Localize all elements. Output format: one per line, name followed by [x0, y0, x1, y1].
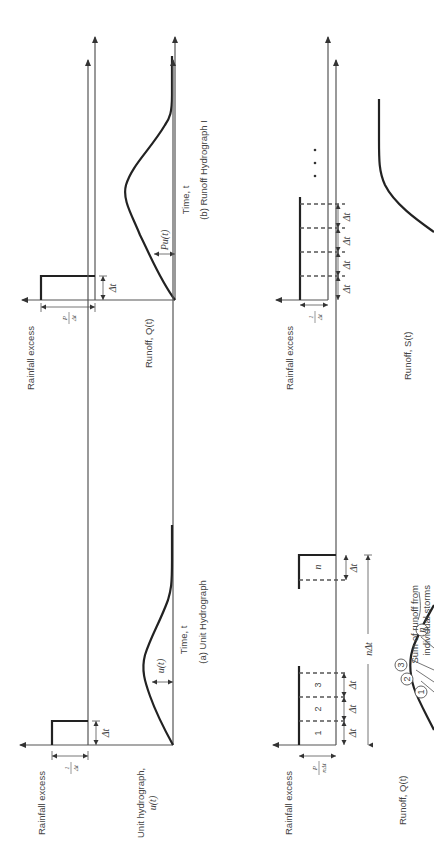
- panel-b-rain-height-den: Δt: [70, 314, 78, 322]
- panel-c-runoff-label: Runoff, Q(t): [397, 776, 408, 825]
- panel-a-runoff-label-1: Unit hydrograph,: [135, 768, 146, 838]
- panel-a-unit-hydrograph: 1 Δt Δt Rainfall excess u(t) Unit hydrog…: [20, 60, 208, 838]
- panel-c-rainfall-label: Rainfall excess: [283, 771, 294, 835]
- panel-c-block-label-2: 2: [313, 706, 323, 711]
- panel-a-rainfall-block: [52, 721, 88, 745]
- panel-b-rainfall-label: Rainfall excess: [25, 326, 36, 390]
- panel-a-time-label: Time, t: [178, 625, 189, 654]
- panel-c-interval-3: Δt: [347, 680, 358, 690]
- panel-a-rainfall-label: Rainfall excess: [36, 771, 47, 835]
- panel-c-superposition: 1 2 3 n P nΔt Δt Δt Δt Δt nΔt Rainfall e…: [273, 60, 434, 835]
- panel-b-ordinate-label: Pu(t): [159, 229, 171, 251]
- storm-marker-1-label: 1: [416, 689, 426, 694]
- panel-d-s-curve: 1 Δt Δt Δt Δt Δt Rainfall excess Runoff,…: [276, 37, 434, 390]
- panel-a-rain-height-num: 1: [63, 766, 71, 770]
- panel-b-time-label: Time, t: [180, 185, 191, 214]
- panel-a-unit-hydrograph-curve: [143, 525, 173, 745]
- panel-b-runoff-hydrograph: P Δt Δt Rainfall excess Pu(t) Runoff, Q(…: [22, 37, 209, 390]
- panel-c-annotation-2: individual storms: [421, 585, 432, 656]
- panel-a-ordinate-label: u(t): [155, 658, 167, 673]
- panel-d-s-curve-line: [379, 99, 434, 232]
- panel-c-annotation-1: Sum of runoff from: [409, 585, 420, 664]
- panel-b-rainfall-block: [41, 276, 95, 300]
- hydrograph-figure: P Δt Δt Rainfall excess Pu(t) Runoff, Q(…: [0, 0, 434, 844]
- panel-d-interval-3: Δt: [341, 236, 352, 246]
- panel-d-interval-2: Δt: [341, 260, 352, 270]
- panel-c-interval-n: Δt: [348, 563, 359, 573]
- panel-c-block-label-3: 3: [313, 682, 323, 687]
- panel-a-caption: (a) Unit Hydrograph: [197, 580, 208, 663]
- panel-c-rainfall-block-n: [299, 555, 336, 589]
- panel-d-rainfall-label: Rainfall excess: [284, 326, 295, 390]
- panel-a-rain-height-den: Δt: [72, 764, 80, 772]
- panel-b-rain-height-num: P: [61, 315, 69, 321]
- panel-b-runoff-curve: [125, 56, 175, 300]
- panel-a-runoff-label-2: u(t): [147, 795, 159, 810]
- panel-d-rain-height-num: 1: [307, 315, 315, 319]
- panel-c-block-label-1: 1: [313, 730, 323, 735]
- panel-c-block-label-n: n: [312, 565, 323, 570]
- panel-d-interval-4: Δt: [341, 212, 352, 222]
- panel-d-rain-height-den: Δt: [316, 313, 324, 321]
- storm-marker-3-label: 3: [396, 662, 406, 667]
- panel-b-duration-label: Δt: [107, 283, 118, 293]
- storm-marker-2-label: 2: [402, 676, 412, 681]
- panel-b-runoff-label: Runoff, Q(t): [143, 319, 154, 368]
- panel-d-runoff-label: Runoff, S(t): [402, 332, 413, 380]
- panel-d-interval-1: Δt: [341, 284, 352, 294]
- panel-a-duration-label: Δt: [100, 728, 111, 738]
- panel-c-interval-2: Δt: [347, 704, 358, 714]
- panel-c-rain-height-num: P: [311, 765, 319, 771]
- panel-b-caption: (b) Runoff Hydrograph I: [198, 120, 209, 220]
- panel-c-rain-height-den: nΔt: [320, 762, 328, 773]
- panel-c-interval-1: Δt: [347, 728, 358, 738]
- panel-c-total-duration: nΔt: [363, 642, 374, 656]
